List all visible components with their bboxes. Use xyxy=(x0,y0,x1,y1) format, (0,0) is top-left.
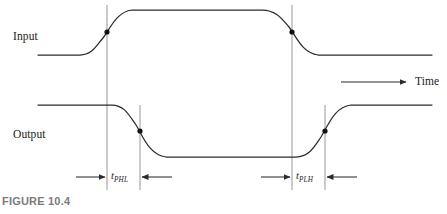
input-waveform-label: Input xyxy=(13,30,38,42)
output-waveform-label: Output xyxy=(13,128,46,140)
tplh-subscript: PLH xyxy=(299,176,313,184)
input-waveform xyxy=(38,10,432,55)
marker-output-rise-midpoint xyxy=(322,128,327,133)
figure-caption: FIGURE 10.4 xyxy=(2,195,70,207)
output-waveform xyxy=(38,105,432,157)
tplh-delay-label: tPLH xyxy=(296,170,313,184)
timing-diagram-canvas xyxy=(0,0,447,214)
input-waveform-path xyxy=(38,10,432,55)
marker-output-fall-midpoint xyxy=(137,128,142,133)
output-waveform-path xyxy=(38,105,432,157)
timing-diagram-figure: Input Output Time tPHL tPLH FIGURE 10.4 xyxy=(0,0,447,214)
tphl-subscript: PHL xyxy=(114,176,128,184)
marker-input-rise-midpoint xyxy=(104,29,109,34)
marker-input-fall-midpoint xyxy=(289,29,294,34)
tphl-delay-label: tPHL xyxy=(111,170,128,184)
time-axis-label: Time xyxy=(415,75,439,87)
midpoint-markers xyxy=(104,29,327,133)
